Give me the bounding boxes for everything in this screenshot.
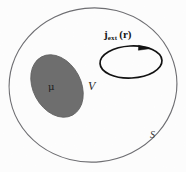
- paper-texture: [0, 0, 186, 172]
- figure-container: jext(r) V S μ: [0, 0, 186, 172]
- diagram-canvas: [0, 0, 186, 172]
